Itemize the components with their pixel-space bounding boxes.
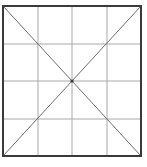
square-grid-diagonals-figure (0, 0, 147, 167)
center-point-marker (70, 79, 73, 82)
figure-background (0, 0, 147, 167)
geometric-figure-canvas: Square divided into a 4 by 4 grid with b… (0, 0, 147, 167)
